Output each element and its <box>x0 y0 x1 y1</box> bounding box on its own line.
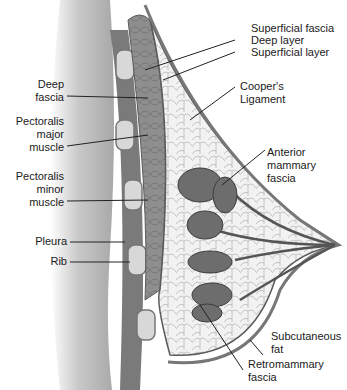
label-deep-fascia: Deep fascia <box>35 78 64 104</box>
anatomy-diagram: Superficial fascia Deep layer Superficia… <box>0 0 347 390</box>
label-pleura: Pleura <box>35 235 67 248</box>
label-anterior-mammary-fascia: Anterior mammary fascia <box>267 146 316 185</box>
label-retromammary-fascia: Retromammary fascia <box>248 358 324 384</box>
label-pectoralis-major: Pectoralis major muscle <box>16 115 64 154</box>
label-superficial-layer: Superficial layer <box>251 46 329 59</box>
label-coopers-ligament: Cooper's Ligament <box>240 80 285 106</box>
label-subcutaneous-fat: Subcutaneous fat <box>271 330 341 356</box>
label-pectoralis-minor: Pectoralis minor muscle <box>16 170 64 209</box>
label-rib: Rib <box>50 255 67 268</box>
